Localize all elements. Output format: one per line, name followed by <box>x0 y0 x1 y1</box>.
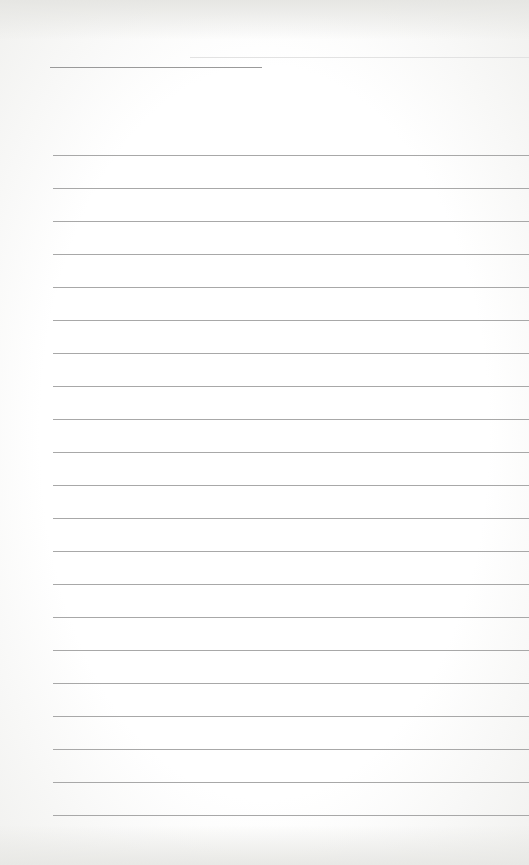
ruled-line <box>53 386 529 387</box>
ruled-line <box>53 749 529 750</box>
ruled-line <box>53 551 529 552</box>
ruled-line <box>53 188 529 189</box>
ruled-line <box>53 518 529 519</box>
ruled-line <box>53 650 529 651</box>
ruled-line <box>53 584 529 585</box>
faint-header-rule <box>190 57 529 58</box>
ruled-line <box>53 485 529 486</box>
name-line <box>50 67 262 68</box>
ruled-line <box>53 716 529 717</box>
paper-bottom-edge <box>0 825 529 865</box>
ruled-line <box>53 353 529 354</box>
ruled-line <box>53 221 529 222</box>
ruled-line <box>53 287 529 288</box>
ruled-line <box>53 683 529 684</box>
ruled-line <box>53 155 529 156</box>
ruled-line <box>53 419 529 420</box>
paper-top-edge <box>0 0 529 40</box>
ruled-line <box>53 815 529 816</box>
ruled-line <box>53 254 529 255</box>
ruled-line <box>53 617 529 618</box>
ruled-line <box>53 782 529 783</box>
ruled-line <box>53 320 529 321</box>
ruled-line <box>53 452 529 453</box>
